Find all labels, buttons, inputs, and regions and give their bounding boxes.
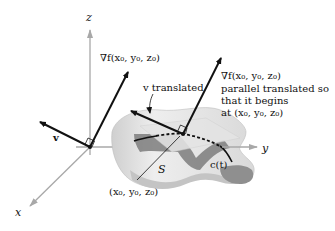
- v-vector-origin: [40, 122, 90, 147]
- diagram-canvas: z x y ∇f(x₀, y₀, z₀) v v translated ∇f(x…: [0, 0, 335, 231]
- curve-label: c(t): [210, 159, 228, 170]
- surface-s: [112, 108, 255, 189]
- x-axis: [30, 147, 90, 206]
- v-label-origin: v: [52, 132, 60, 143]
- y-axis-label: y: [261, 142, 269, 155]
- x-axis-label: x: [15, 206, 22, 219]
- gradient-label-translated-2: parallel translated so: [221, 83, 329, 94]
- gradient-label-translated-1: ∇f(x₀, y₀, z₀): [221, 70, 281, 81]
- surface-label: S: [158, 163, 166, 176]
- v-translated-label: v translated: [142, 82, 204, 93]
- point-label: (x₀, y₀, z₀): [109, 186, 158, 197]
- gradient-label-translated-3: that it begins: [221, 95, 289, 106]
- gradient-label-origin: ∇f(x₀, y₀, z₀): [100, 52, 160, 63]
- origin-dot: [88, 145, 92, 149]
- point-dot: [181, 132, 185, 136]
- gradient-label-translated-4: at (x₀, y₀, z₀): [221, 107, 283, 118]
- z-axis-label: z: [85, 11, 92, 24]
